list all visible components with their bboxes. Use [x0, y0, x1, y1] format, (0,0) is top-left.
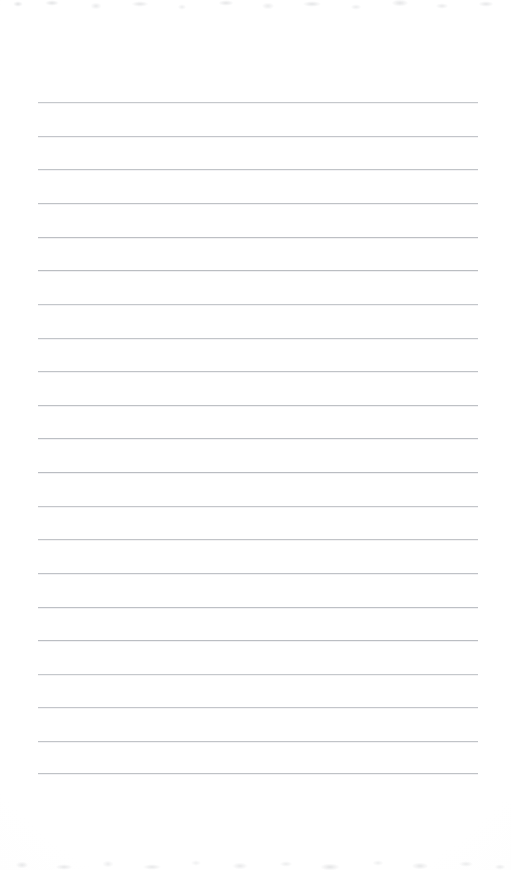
- ruled-line: [38, 338, 478, 339]
- ruled-line: [38, 741, 478, 742]
- ruled-line: [38, 136, 478, 137]
- ruled-lines-group: [0, 0, 511, 870]
- ruled-line: [38, 169, 478, 170]
- ruled-line: [38, 640, 478, 641]
- ruled-line: [38, 506, 478, 507]
- ruled-line: [38, 539, 478, 540]
- ruled-line: [38, 607, 478, 608]
- ruled-line: [38, 237, 478, 238]
- ruled-line: [38, 472, 478, 473]
- ruled-line: [38, 405, 478, 406]
- ruled-line: [38, 674, 478, 675]
- ruled-line: [38, 573, 478, 574]
- ruled-line: [38, 270, 478, 271]
- ruled-line: [38, 707, 478, 708]
- ruled-line: [38, 304, 478, 305]
- ruled-line: [38, 102, 478, 103]
- ruled-line: [38, 203, 478, 204]
- ruled-line: [38, 371, 478, 372]
- ruled-line: [38, 773, 478, 774]
- ruled-line: [38, 438, 478, 439]
- notepaper-page: [0, 0, 511, 870]
